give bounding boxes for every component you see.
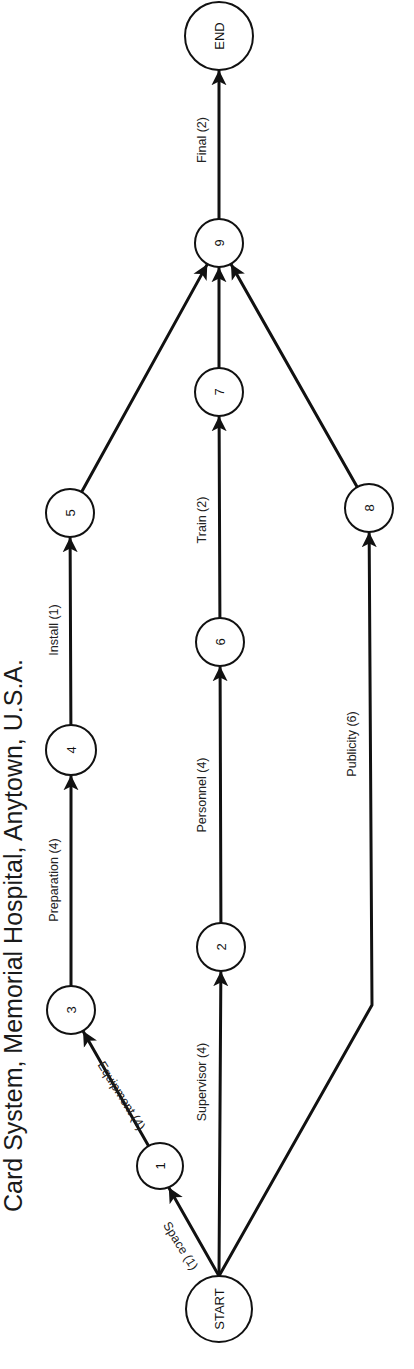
node-4: 4: [46, 725, 96, 775]
edge-label-personnel: Personnel (4): [195, 757, 209, 832]
edge-2-to-6: [220, 667, 221, 923]
node-label: 1: [153, 1162, 168, 1169]
edge-label-supervisor: Supervisor (4): [195, 1043, 209, 1122]
node-end: END: [185, 2, 253, 70]
node-label: START: [212, 1288, 227, 1329]
edge-6-to-7: [219, 417, 220, 618]
node-1: 1: [137, 1143, 183, 1189]
edge-label-equipment: Equipment (4): [95, 1059, 148, 1133]
node-label: 2: [214, 943, 229, 950]
node-2: 2: [197, 923, 245, 971]
edge-label-space: Space (1): [160, 1219, 201, 1272]
edge-8-to-9: [231, 265, 357, 487]
edge-label-publicity: Publicity (6): [345, 711, 359, 776]
node-5: 5: [46, 489, 94, 537]
edge-label-install: Install (1): [47, 604, 61, 655]
node-label: 6: [213, 638, 228, 645]
edge-label-train: Train (2): [195, 497, 209, 544]
edge-5-to-9: [82, 265, 207, 492]
edge-start-to-2: [219, 972, 221, 1276]
node-label: 9: [212, 239, 227, 246]
edge-label-preparation: Preparation (4): [47, 838, 61, 921]
diagram-title: Card System, Memorial Hospital, Anytown,…: [0, 659, 27, 1212]
node-label: END: [212, 22, 227, 49]
node-label: 8: [362, 504, 377, 511]
node-label: 7: [212, 388, 227, 395]
node-7: 7: [195, 368, 243, 416]
node-9: 9: [195, 219, 243, 267]
node-label: 4: [64, 746, 79, 753]
edge-4-to-5: [70, 538, 71, 725]
pert-network-diagram: Card System, Memorial Hospital, Anytown,…: [0, 0, 414, 1369]
node-3: 3: [47, 986, 95, 1034]
edge-labels-layer: Space (1)Equipment (4)Preparation (4)Ins…: [47, 117, 359, 1272]
node-6: 6: [196, 618, 244, 666]
edge-label-final: Final (2): [195, 117, 209, 163]
node-8: 8: [345, 484, 393, 532]
node-label: 3: [64, 1006, 79, 1013]
node-label: 5: [63, 509, 78, 516]
node-start: START: [186, 1276, 252, 1342]
